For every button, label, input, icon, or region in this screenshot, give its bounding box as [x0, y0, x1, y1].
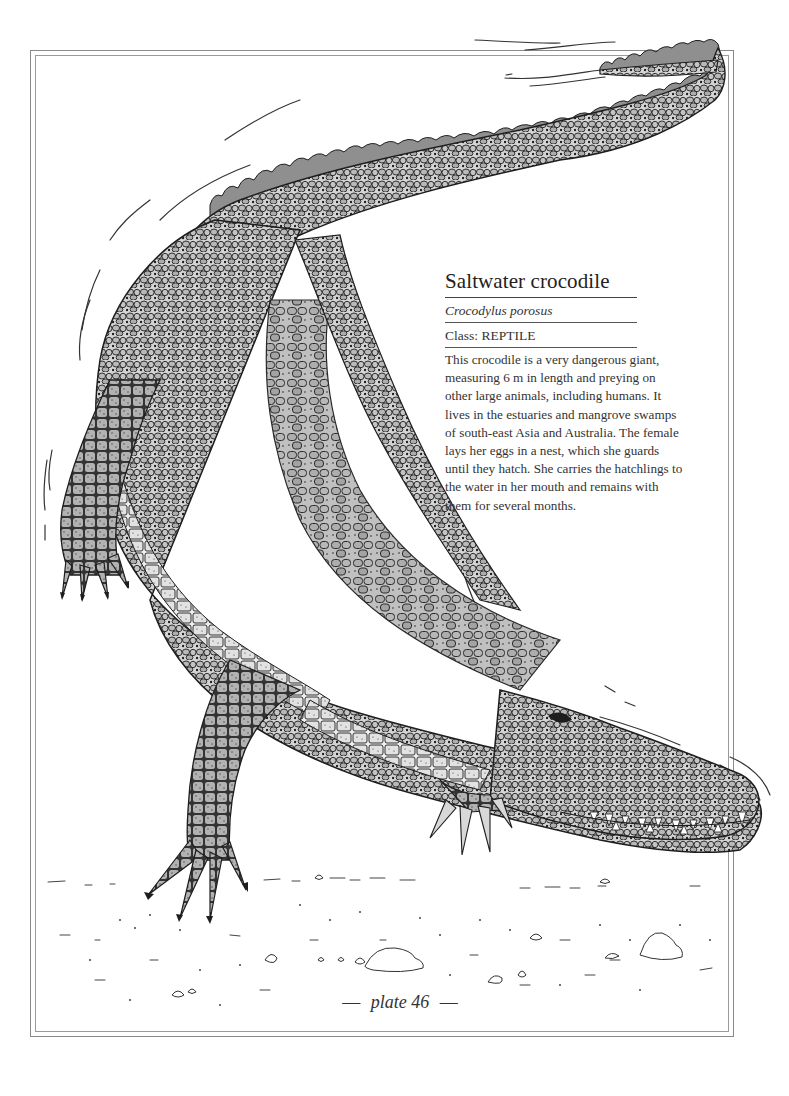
dash-right: — [440, 992, 458, 1012]
species-info: Saltwater crocodile Crocodylus porosus C… [445, 268, 637, 515]
species-title: Saltwater crocodile [445, 268, 637, 298]
plate-label: plate 46 [371, 992, 430, 1012]
front-claws [148, 840, 246, 920]
class-label: Class: REPTILE [445, 323, 637, 348]
species-description: This crocodile is a very dangerous giant… [445, 348, 685, 515]
crocodile-front-leg [187, 660, 300, 860]
dash-left: — [342, 992, 360, 1012]
scientific-name: Crocodylus porosus [445, 298, 637, 323]
plate-number: — plate 46 — [310, 992, 490, 1013]
pebbles [172, 875, 682, 997]
crocodile-illustration [0, 0, 789, 1096]
